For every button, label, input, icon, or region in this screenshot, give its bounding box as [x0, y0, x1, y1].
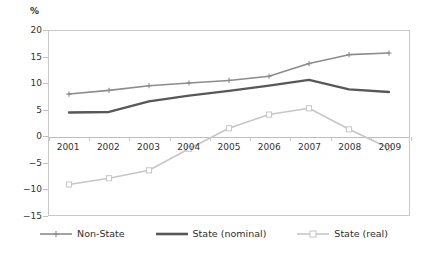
y-axis-tick-label: −5 [16, 158, 42, 168]
legend-swatch-open-square [296, 229, 330, 239]
y-axis-tick-label: 5 [16, 105, 42, 115]
data-point-marker [266, 74, 271, 79]
data-point-marker [66, 182, 71, 187]
y-axis-tick-label: 15 [16, 52, 42, 62]
data-point-marker [306, 106, 311, 111]
x-axis-tick-mark [411, 137, 412, 141]
x-axis-tick-label: 2006 [258, 142, 281, 152]
data-point-marker [226, 78, 231, 83]
legend-label: State (nominal) [193, 228, 267, 239]
series-state-nominal [69, 80, 389, 113]
x-axis-tick-label: 2002 [97, 142, 120, 152]
data-point-marker [146, 168, 151, 173]
data-point-marker [106, 176, 111, 181]
data-point-marker [346, 52, 351, 57]
y-axis-tick-label: 10 [16, 78, 42, 88]
chart-legend: Non-StateState (nominal)State (real) [0, 228, 427, 239]
line-chart: % 20151050−5−10−15 200120022003200420052… [0, 0, 427, 255]
x-axis-tick-label: 2004 [177, 142, 200, 152]
data-point-marker [226, 126, 231, 131]
y-axis-tick-label: −10 [16, 184, 42, 194]
data-point-marker [386, 51, 391, 56]
x-axis-tick-label: 2007 [298, 142, 321, 152]
legend-label: State (real) [334, 228, 388, 239]
data-point-marker [66, 92, 71, 97]
data-point-marker [106, 88, 111, 93]
data-point-marker [346, 127, 351, 132]
data-point-marker [266, 112, 271, 117]
plot-area [48, 30, 410, 216]
data-point-marker [306, 61, 311, 66]
y-axis-tick-mark [43, 216, 48, 217]
y-axis-tick-label: −15 [16, 211, 42, 221]
y-axis-tick-label: 20 [16, 25, 42, 35]
x-axis-tick-label: 2009 [378, 142, 401, 152]
series-layer [49, 31, 409, 215]
data-point-marker [186, 80, 191, 85]
x-axis-tick-label: 2003 [137, 142, 160, 152]
y-axis-tick-label: 0 [16, 131, 42, 141]
legend-item[interactable]: State (real) [296, 228, 388, 239]
legend-swatch-line [155, 229, 189, 239]
x-axis-tick-label: 2008 [338, 142, 361, 152]
y-axis-unit-label: % [30, 6, 39, 16]
x-axis-tick-label: 2001 [57, 142, 80, 152]
legend-item[interactable]: Non-State [39, 228, 125, 239]
x-axis-tick-label: 2005 [218, 142, 241, 152]
data-point-marker [146, 83, 151, 88]
legend-item[interactable]: State (nominal) [155, 228, 267, 239]
legend-swatch-plus [39, 229, 73, 239]
legend-label: Non-State [77, 228, 125, 239]
series-line [69, 80, 389, 113]
